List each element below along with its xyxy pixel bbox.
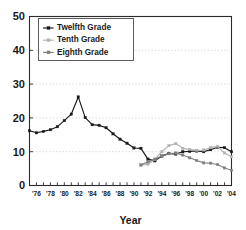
data-point-marker <box>42 130 45 133</box>
x-tick-label: '90 <box>130 190 139 197</box>
data-point-marker <box>63 119 66 122</box>
x-tick-label: '92 <box>143 190 152 197</box>
data-point-marker <box>105 126 108 128</box>
line-chart: 01020304050 '76'78'80'82'84'86'88'90'92'… <box>0 0 246 230</box>
y-tick-label: 30 <box>13 78 25 90</box>
data-point-marker <box>230 150 233 153</box>
data-point-marker <box>195 149 198 152</box>
data-point-marker <box>230 156 233 159</box>
data-point-marker <box>133 147 136 150</box>
data-point-marker <box>49 128 52 131</box>
x-tick-label: '00 <box>199 190 208 197</box>
data-point-marker <box>126 142 129 145</box>
data-point-marker <box>147 158 150 161</box>
data-point-marker <box>195 159 198 162</box>
x-tick-label: '94 <box>157 190 166 197</box>
series-line <box>30 97 232 161</box>
data-point-marker <box>112 133 115 136</box>
x-tick-label: '02 <box>213 190 222 197</box>
data-point-marker <box>168 152 171 155</box>
y-tick-label: 50 <box>13 10 25 22</box>
data-point-marker <box>77 96 80 99</box>
data-point-marker <box>223 167 226 170</box>
data-point-marker <box>154 158 157 161</box>
data-point-marker <box>209 146 212 149</box>
data-point-marker <box>91 123 94 126</box>
data-point-marker <box>181 150 184 153</box>
x-tick-label: '86 <box>102 190 111 197</box>
x-axis-tick-labels: '76'78'80'82'84'86'88'90'92'94'96'98'00'… <box>32 190 236 197</box>
data-point-marker <box>188 157 191 160</box>
y-tick-label: 20 <box>13 112 25 124</box>
data-point-marker <box>70 113 73 116</box>
y-tick-label: 40 <box>13 44 25 56</box>
chart-legend: Twelfth GradeTenth GradeEighth Grade <box>39 19 134 61</box>
y-tick-label: 0 <box>19 179 25 191</box>
chart-canvas: 01020304050 '76'78'80'82'84'86'88'90'92'… <box>0 0 246 230</box>
data-point-marker <box>98 124 101 127</box>
x-tick-label: '78 <box>46 190 55 197</box>
data-point-marker <box>216 145 219 148</box>
data-point-marker <box>35 132 38 135</box>
y-tick-label: 10 <box>13 146 25 158</box>
x-tick-label: '84 <box>88 190 97 197</box>
legend-label: Tenth Grade <box>57 35 105 44</box>
data-point-marker <box>223 152 226 155</box>
data-point-marker <box>28 129 31 132</box>
data-series <box>28 96 233 172</box>
legend-label: Eighth Grade <box>57 48 109 57</box>
x-tick-label: '98 <box>185 190 194 197</box>
data-point-marker <box>56 125 59 128</box>
data-point-marker <box>140 147 143 150</box>
series-twelfth-grade <box>28 96 233 162</box>
legend-marker-icon <box>47 39 50 42</box>
x-tick-label: '80 <box>60 190 69 197</box>
data-point-marker <box>161 155 164 158</box>
data-point-marker <box>119 138 122 141</box>
data-point-marker <box>188 148 191 151</box>
data-point-marker <box>161 150 164 153</box>
data-point-marker <box>216 163 219 166</box>
data-point-marker <box>181 147 184 150</box>
data-point-marker <box>84 116 87 119</box>
data-point-marker <box>140 164 143 167</box>
data-point-marker <box>230 169 233 172</box>
x-tick-label: '04 <box>227 190 236 197</box>
series-tenth-grade <box>140 142 233 166</box>
y-axis-tick-labels: 01020304050 <box>13 10 25 191</box>
x-tick-label: '88 <box>116 190 125 197</box>
data-point-marker <box>175 142 178 145</box>
x-axis-title: Year <box>119 214 141 226</box>
data-point-marker <box>181 154 184 157</box>
data-point-marker <box>202 149 205 152</box>
data-point-marker <box>147 161 150 164</box>
data-point-marker <box>223 146 226 149</box>
legend-marker-icon <box>47 51 50 54</box>
data-point-marker <box>209 162 212 165</box>
data-point-marker <box>175 152 178 155</box>
data-point-marker <box>147 163 150 166</box>
data-point-marker <box>202 162 205 165</box>
legend-label: Twelfth Grade <box>57 23 111 32</box>
legend-marker-icon <box>47 27 50 30</box>
x-tick-label: '76 <box>32 190 41 197</box>
data-point-marker <box>168 144 171 147</box>
x-tick-label: '96 <box>171 190 180 197</box>
x-tick-label: '82 <box>74 190 83 197</box>
